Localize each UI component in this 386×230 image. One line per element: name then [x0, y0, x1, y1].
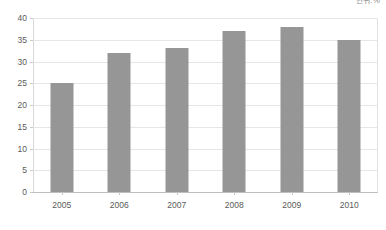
bar-slot: [206, 18, 264, 192]
unit-annotation: 단위:%: [356, 0, 380, 5]
bar-2006[interactable]: [108, 53, 131, 192]
gridline: [33, 192, 378, 193]
bar-slot: [91, 18, 149, 192]
y-tick-label: 20: [0, 100, 27, 110]
y-tick-label: 40: [0, 13, 27, 23]
x-tick-label-2010: 2010: [340, 200, 359, 210]
bar-2007[interactable]: [165, 48, 188, 192]
bar-slot: [148, 18, 206, 192]
bar-slot: [321, 18, 379, 192]
bar-series: [33, 18, 378, 192]
x-tick-label-2006: 2006: [110, 200, 129, 210]
x-tick-mark: [62, 192, 63, 195]
y-tick-label: 10: [0, 144, 27, 154]
x-tick-label-2008: 2008: [225, 200, 244, 210]
y-tick-label: 25: [0, 78, 27, 88]
x-tick-mark: [234, 192, 235, 195]
bar-2009[interactable]: [280, 27, 303, 192]
bar-2008[interactable]: [223, 31, 246, 192]
x-tick-label-2007: 2007: [167, 200, 186, 210]
bar-slot: [33, 18, 91, 192]
y-tick-label: 35: [0, 35, 27, 45]
x-tick-mark: [177, 192, 178, 195]
y-tick-label: 15: [0, 122, 27, 132]
bar-chart: 단위:% 0510152025303540 200520062007200820…: [0, 0, 386, 230]
x-tick-mark: [119, 192, 120, 195]
y-tick-mark: [30, 192, 33, 193]
y-tick-label: 0: [0, 187, 27, 197]
x-tick-label-2005: 2005: [52, 200, 71, 210]
bar-2010[interactable]: [338, 40, 361, 192]
y-tick-label: 30: [0, 57, 27, 67]
bar-slot: [263, 18, 321, 192]
y-tick-label: 5: [0, 165, 27, 175]
x-tick-label-2009: 2009: [282, 200, 301, 210]
x-tick-mark: [292, 192, 293, 195]
bar-2005[interactable]: [50, 83, 73, 192]
x-tick-mark: [349, 192, 350, 195]
